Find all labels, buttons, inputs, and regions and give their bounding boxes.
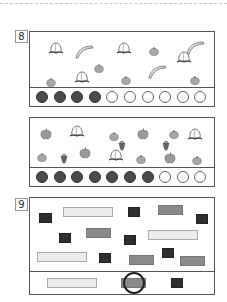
dark-rectangle (124, 235, 136, 245)
empty-circle[interactable] (106, 91, 118, 103)
peach-icon (116, 41, 132, 60)
light-rectangle (63, 207, 113, 217)
filled-circle[interactable] (124, 171, 136, 183)
dark-rectangle (59, 233, 71, 243)
banana-icon (147, 63, 167, 83)
empty-circle[interactable] (159, 91, 171, 103)
empty-circle[interactable] (177, 91, 189, 103)
peach-icon (187, 127, 203, 146)
filled-circle[interactable] (54, 91, 66, 103)
problem-8b-frame (29, 117, 215, 187)
tangerine-icon (46, 72, 56, 91)
answer-choice-light[interactable] (47, 278, 97, 288)
tangerine-icon (149, 41, 159, 60)
filled-circle[interactable] (89, 91, 101, 103)
peach-icon (48, 41, 64, 60)
mid-rectangle (129, 255, 154, 265)
empty-circle[interactable] (124, 91, 136, 103)
tangerine-icon (136, 149, 146, 168)
filled-circle[interactable] (36, 171, 48, 183)
mid-rectangle (180, 256, 205, 266)
dark-rectangle (128, 207, 140, 217)
problem-8-frame (29, 31, 215, 107)
tangerine-icon (94, 58, 104, 77)
answer-choices[interactable] (30, 272, 214, 294)
empty-circle[interactable] (177, 171, 189, 183)
peach-icon (108, 148, 124, 167)
empty-circle[interactable] (159, 171, 171, 183)
problem-9-frame (29, 197, 215, 295)
peach-icon (69, 124, 85, 143)
mid-rectangle (86, 228, 111, 238)
apple-icon (137, 125, 149, 144)
empty-circle[interactable] (194, 91, 206, 103)
filled-circle[interactable] (71, 171, 83, 183)
filled-circle[interactable] (36, 91, 48, 103)
answer-choice-dark[interactable] (171, 278, 183, 288)
selected-answer-circle (123, 272, 145, 294)
apple-icon (40, 125, 52, 144)
dark-rectangle (162, 248, 174, 258)
filled-circle[interactable] (71, 91, 83, 103)
empty-circle[interactable] (142, 91, 154, 103)
dark-rectangle (99, 253, 111, 263)
tangerine-icon (169, 124, 179, 143)
mid-rectangle (158, 205, 183, 215)
filled-circle[interactable] (106, 171, 118, 183)
problem-number-9: 9 (15, 198, 28, 211)
empty-circle[interactable] (194, 171, 206, 183)
strawberry-icon (60, 149, 68, 168)
frame-divider (30, 87, 214, 88)
problem-number-8: 8 (15, 30, 28, 43)
filled-circle[interactable] (142, 171, 154, 183)
filled-circle[interactable] (89, 171, 101, 183)
tangerine-icon (37, 147, 47, 166)
dark-rectangle (196, 214, 208, 224)
light-rectangle (37, 252, 87, 262)
light-rectangle (148, 230, 198, 240)
dark-rectangle (39, 213, 52, 223)
apple-icon (164, 149, 176, 168)
filled-circle[interactable] (54, 171, 66, 183)
peach-icon (176, 50, 192, 69)
apple-icon (79, 144, 91, 163)
frame-divider (30, 167, 214, 168)
top-dotted-divider (0, 3, 227, 4)
banana-icon (74, 43, 94, 63)
